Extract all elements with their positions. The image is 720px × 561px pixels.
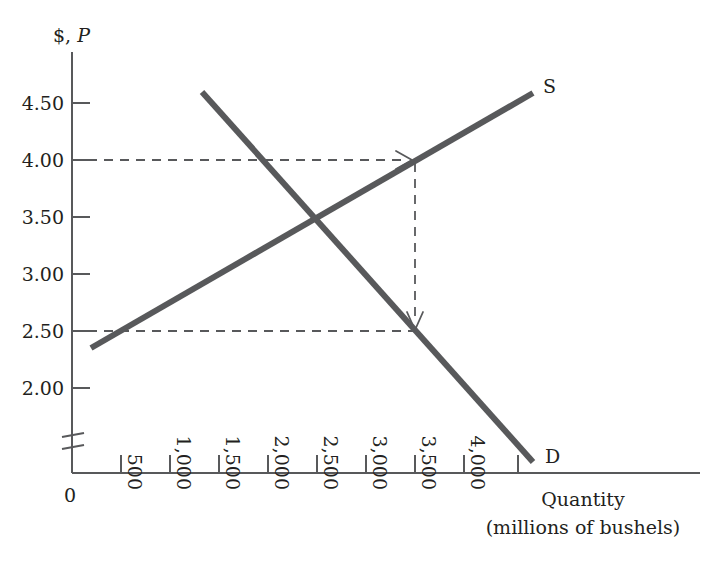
x-tick-label-3000: 3,000: [369, 436, 391, 490]
x-axis-title-line1: Quantity: [541, 488, 625, 510]
annotation-price-ceiling-400: [72, 151, 412, 169]
y-axis-title: $, P: [53, 24, 91, 46]
axes: [72, 52, 700, 473]
y-tick-label-200: 2.00: [22, 377, 64, 399]
demand-curve: [202, 92, 533, 462]
y-axis-tick-labels: 4.50 4.00 3.50 3.00 2.50 2.00: [22, 92, 64, 399]
curves: [91, 92, 533, 462]
y-tick-label-250: 2.50: [22, 320, 64, 342]
supply-curve: [91, 93, 533, 348]
x-tick-label-2000: 2,000: [271, 436, 293, 490]
y-axis-title-price-symbol: P: [76, 24, 91, 46]
x-tick-label-3500: 3,500: [418, 436, 440, 490]
y-axis-title-dollar: $,: [53, 24, 77, 46]
x-axis-title: Quantity (millions of bushels): [486, 488, 681, 538]
x-tick-label-1500: 1,500: [222, 436, 244, 490]
x-tick-label-1000: 1,000: [173, 436, 195, 490]
y-tick-label-300: 3.00: [22, 263, 64, 285]
y-tick-label-400: 4.00: [22, 149, 64, 171]
x-tick-label-0: 0: [64, 484, 76, 506]
demand-curve-label: D: [545, 445, 560, 467]
y-axis-ticks: [72, 103, 90, 388]
supply-curve-label: S: [543, 75, 556, 97]
x-axis-tick-labels: 0 500 1,000 1,500 2,000 2,500 3,000 3,50…: [64, 436, 489, 506]
y-tick-label-450: 4.50: [22, 92, 64, 114]
x-tick-label-4000: 4,000: [467, 436, 489, 490]
supply-demand-chart: $, P 4.50 4.00 3.50 3.00 2.50 2.00: [0, 0, 720, 561]
x-axis-title-line2: (millions of bushels): [486, 516, 681, 538]
x-tick-label-2500: 2,500: [320, 436, 342, 490]
y-tick-label-350: 3.50: [22, 206, 64, 228]
x-tick-label-500: 500: [124, 454, 146, 490]
annotation-quantity-3500: [407, 163, 423, 330]
curve-labels: S D: [543, 75, 560, 467]
